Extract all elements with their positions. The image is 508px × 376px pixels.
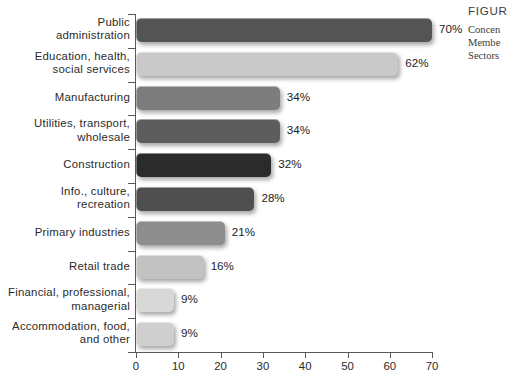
figure-caption-line: Sectors <box>468 49 508 62</box>
x-axis-tick-label: 60 <box>375 360 405 372</box>
bar-value-label: 62% <box>405 56 428 69</box>
chart-row: Primary industries21% <box>0 217 460 250</box>
bar-chart: Public administration70%Education, healt… <box>0 0 460 376</box>
bar <box>136 221 225 245</box>
category-label: Construction <box>0 158 130 171</box>
x-axis-tick <box>178 352 179 358</box>
bar-value-label: 9% <box>181 326 198 339</box>
y-axis-tick <box>128 284 135 285</box>
x-axis-tick-label: 70 <box>417 360 447 372</box>
y-axis-tick <box>128 318 135 319</box>
figure-caption-title: FIGUR <box>468 4 508 17</box>
chart-row: Construction32% <box>0 149 460 182</box>
category-label: Primary industries <box>0 226 130 239</box>
bar <box>136 18 432 42</box>
x-axis-tick-label: 0 <box>121 360 151 372</box>
y-axis-tick <box>128 352 135 353</box>
bar <box>136 153 271 177</box>
category-label: Manufacturing <box>0 91 130 104</box>
category-label: Public administration <box>0 16 130 42</box>
chart-row: Financial, professional, managerial9% <box>0 284 460 317</box>
bar <box>136 288 174 312</box>
chart-row: Education, health, social services62% <box>0 48 460 81</box>
category-label: Info., culture, recreation <box>0 185 130 211</box>
x-axis-tick-label: 10 <box>163 360 193 372</box>
bar-value-label: 34% <box>287 123 310 136</box>
bar-value-label: 9% <box>181 292 198 305</box>
chart-row: Utilities, transport, wholesale34% <box>0 115 460 148</box>
figure-caption: FIGUR ConcenMembeSectors <box>468 4 508 62</box>
category-label: Accommodation, food, and other <box>0 320 130 346</box>
category-label: Retail trade <box>0 260 130 273</box>
x-axis-tick-label: 50 <box>333 360 363 372</box>
chart-row: Public administration70% <box>0 14 460 47</box>
figure-root: Public administration70%Education, healt… <box>0 0 508 376</box>
x-axis-tick <box>432 352 433 358</box>
chart-row: Accommodation, food, and other9% <box>0 318 460 351</box>
y-axis-line <box>135 14 136 352</box>
x-axis-tick <box>263 352 264 358</box>
bar <box>136 52 398 76</box>
category-label: Financial, professional, managerial <box>0 286 130 312</box>
x-axis-tick-label: 40 <box>290 360 320 372</box>
x-axis-line <box>135 352 432 353</box>
y-axis-tick <box>128 149 135 150</box>
y-axis-tick <box>128 14 135 15</box>
chart-row: Retail trade16% <box>0 251 460 284</box>
bar <box>136 187 254 211</box>
x-axis-tick <box>305 352 306 358</box>
category-label: Utilities, transport, wholesale <box>0 117 130 143</box>
figure-caption-line: Membe <box>468 36 508 49</box>
bar-value-label: 34% <box>287 90 310 103</box>
bar-value-label: 32% <box>278 157 301 170</box>
bar-value-label: 70% <box>439 22 462 35</box>
x-axis-tick <box>390 352 391 358</box>
y-axis-tick <box>128 217 135 218</box>
bar-value-label: 16% <box>211 259 234 272</box>
chart-row: Info., culture, recreation28% <box>0 183 460 216</box>
x-axis-tick-label: 30 <box>248 360 278 372</box>
y-axis-tick <box>128 183 135 184</box>
x-axis-tick <box>221 352 222 358</box>
y-axis-tick <box>128 48 135 49</box>
figure-caption-body: ConcenMembeSectors <box>468 23 508 62</box>
bar <box>136 322 174 346</box>
y-axis-tick <box>128 251 135 252</box>
bar <box>136 119 280 143</box>
category-label: Education, health, social services <box>0 50 130 76</box>
x-axis-tick <box>348 352 349 358</box>
x-axis-tick <box>136 352 137 358</box>
bar-value-label: 21% <box>232 225 255 238</box>
y-axis-tick <box>128 115 135 116</box>
y-axis-tick <box>128 82 135 83</box>
x-axis-tick-label: 20 <box>206 360 236 372</box>
figure-caption-line: Concen <box>468 23 508 36</box>
bar <box>136 255 204 279</box>
bar-value-label: 28% <box>261 191 284 204</box>
bar <box>136 86 280 110</box>
chart-row: Manufacturing34% <box>0 82 460 115</box>
